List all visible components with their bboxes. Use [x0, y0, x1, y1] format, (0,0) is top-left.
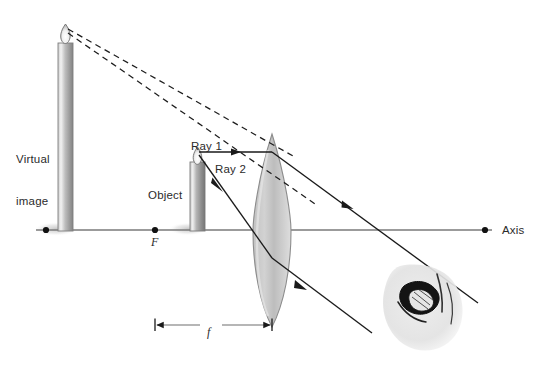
- label-axis: Axis: [502, 223, 525, 237]
- label-ray-1: Ray 1: [191, 139, 222, 153]
- focal-length-dimension: [155, 319, 272, 332]
- object-candle-body: [190, 162, 205, 231]
- label-focal-point: F: [151, 235, 159, 249]
- ray-diagram-svg: [0, 0, 552, 367]
- virtual-image-candle-body: [58, 43, 73, 231]
- ray2-refracted-arrowhead: [294, 280, 307, 290]
- lens-body: [253, 134, 291, 327]
- axis-end-dot: [482, 227, 488, 233]
- figure-canvas: Virtual image Object Ray 1 Ray 2 Axis F …: [0, 0, 552, 367]
- label-virtual-image-line2: image: [16, 194, 50, 208]
- focal-point-dot: [152, 227, 158, 233]
- label-object: Object: [148, 188, 182, 202]
- ray1-refracted-arrowhead: [342, 201, 354, 210]
- label-ray-2: Ray 2: [215, 162, 246, 176]
- converging-lens: [253, 134, 291, 327]
- dashed-line-ray1-extension: [68, 29, 293, 156]
- ray2-refracted-segment: [272, 258, 372, 333]
- label-virtual-image-line1: Virtual: [16, 152, 50, 166]
- observer-eye: [383, 265, 463, 351]
- label-virtual-image: Virtual image: [16, 124, 50, 236]
- virtual-image-candle: [58, 24, 73, 231]
- label-focal-length: f: [207, 325, 211, 339]
